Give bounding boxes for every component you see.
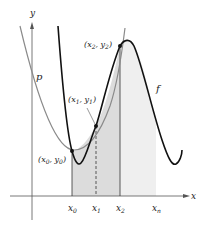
x-axis-arrow-icon (183, 194, 190, 198)
tick-label-x2: x2 (116, 203, 125, 214)
point-label-x0-y0: (x0, y0) (38, 155, 66, 165)
curve-f-label: f (155, 83, 162, 94)
x1-label-leader (87, 108, 95, 124)
diagram-canvas: y x p f (x0, y0) (x1, y1) (x2, y2) x0 x1… (0, 0, 204, 228)
y-axis-label: y (29, 8, 36, 18)
curve-p-label: p (36, 71, 43, 82)
point-x0-y0 (70, 149, 74, 153)
x-axis-label: x (191, 191, 196, 201)
y-axis-arrow-icon (30, 22, 34, 29)
point-label-x2-y2: (x2, y2) (84, 40, 112, 50)
tick-label-x0: x0 (68, 203, 77, 214)
point-x1-y1 (94, 124, 98, 128)
point-x2-y2 (118, 44, 122, 48)
simpson-rule-diagram: y x p f (x0, y0) (x1, y1) (x2, y2) x0 x1… (0, 0, 204, 228)
tick-label-x1: x1 (92, 203, 101, 214)
tick-label-xn: xn (152, 203, 161, 214)
shaded-region-right (120, 41, 156, 196)
point-label-x1-y1: (x1, y1) (68, 95, 96, 105)
